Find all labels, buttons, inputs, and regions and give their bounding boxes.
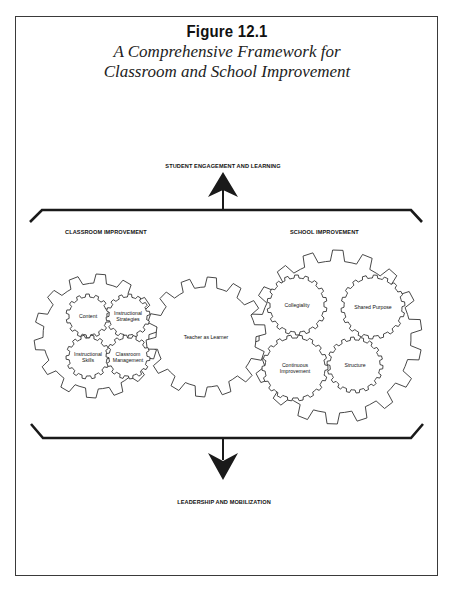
bottom-driver-label: LEADERSHIP AND MOBILIZATION xyxy=(177,499,271,505)
teacher-as-learner-label: Teacher as Learner xyxy=(184,334,229,340)
continuous-improvement-label: Improvement xyxy=(280,368,311,374)
content-label: Content xyxy=(79,313,98,319)
up-arrow-icon xyxy=(208,172,238,211)
classroom-improvement-label: CLASSROOM IMPROVEMENT xyxy=(65,229,147,235)
down-arrow-icon xyxy=(208,438,238,480)
instructional-skills-label: Instructional xyxy=(74,351,102,357)
instructional-strategies-label: Instructional xyxy=(114,310,142,316)
school-outer-gear-icon xyxy=(248,250,421,424)
structure-label: Structure xyxy=(344,362,365,368)
instructional-strategies-label: Strategies xyxy=(116,316,140,322)
top-outcome-label: STUDENT ENGAGEMENT AND LEARNING xyxy=(165,163,280,169)
collegiality-label: Collegiality xyxy=(284,302,309,308)
continuous-improvement-label: Continuous xyxy=(282,362,309,368)
framework-diagram: STUDENT ENGAGEMENT AND LEARNING CLASSROO… xyxy=(0,0,454,591)
school-improvement-label: SCHOOL IMPROVEMENT xyxy=(290,229,359,235)
bottom-bracket xyxy=(31,424,423,438)
classroom-management-label: Management xyxy=(113,357,144,363)
classroom-management-label: Classroom xyxy=(116,351,141,357)
top-bracket xyxy=(30,210,422,222)
instructional-skills-label: Skills xyxy=(82,357,95,363)
shared-purpose-label: Shared Purpose xyxy=(354,304,392,310)
gear-system: Teacher as LearnerContentInstructionalSt… xyxy=(34,250,422,424)
